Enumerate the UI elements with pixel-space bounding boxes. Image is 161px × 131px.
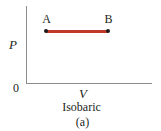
isobaric-process-line bbox=[46, 30, 108, 33]
state-point-a-label: A bbox=[42, 13, 51, 25]
pressure-axis-label: P bbox=[9, 38, 17, 51]
process-type-caption: Isobaric bbox=[0, 101, 161, 113]
state-point-a-marker bbox=[44, 29, 48, 33]
pressure-axis-line bbox=[26, 6, 27, 84]
volume-axis-line bbox=[26, 83, 152, 84]
pv-diagram-figure: P V 0 A B Isobaric (a) bbox=[0, 0, 161, 131]
state-point-b-marker bbox=[106, 29, 110, 33]
panel-label-caption: (a) bbox=[0, 116, 161, 128]
volume-axis-label: V bbox=[0, 87, 161, 100]
origin-label: 0 bbox=[13, 82, 19, 94]
state-point-b-label: B bbox=[104, 13, 113, 25]
